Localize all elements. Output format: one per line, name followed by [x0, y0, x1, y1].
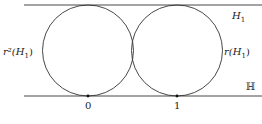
label-right-circle-text: r(H	[224, 46, 241, 57]
diagram-canvas: H1 r²(H1) r(H1) ℍ 0 1	[0, 0, 262, 124]
label-left-circle-text: r²(H	[3, 46, 24, 57]
label-top-line-sub: 1	[241, 16, 245, 24]
label-right-circle: r(H1)	[224, 47, 250, 60]
diagram-graphics	[0, 0, 262, 124]
label-top-line: H1	[232, 11, 245, 24]
label-bottom-line: ℍ	[246, 82, 255, 92]
point-1-dot	[176, 95, 179, 98]
right-circle	[132, 5, 223, 96]
left-circle	[43, 5, 134, 96]
label-top-line-text: H	[232, 10, 241, 21]
label-left-circle-close: )	[29, 46, 33, 57]
label-left-circle: r²(H1)	[3, 47, 33, 60]
label-right-circle-close: )	[246, 46, 250, 57]
label-point-1: 1	[174, 101, 180, 111]
label-point-0: 0	[85, 101, 91, 111]
point-0-dot	[87, 95, 90, 98]
